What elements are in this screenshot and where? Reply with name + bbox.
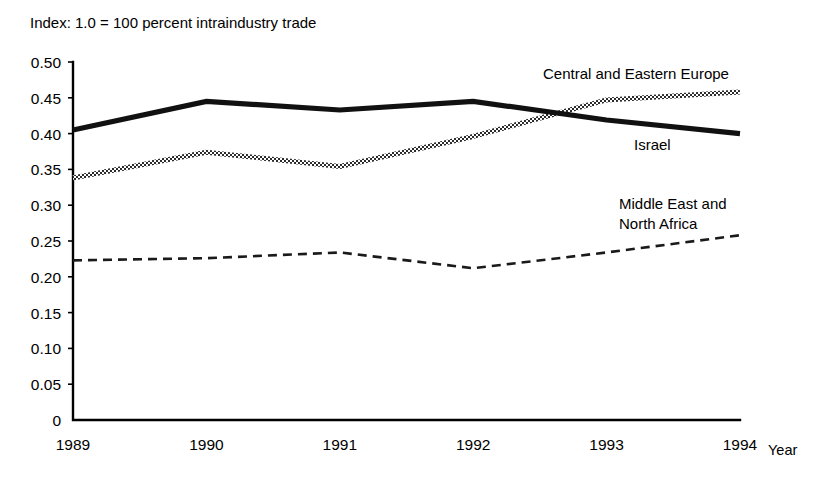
series-annotation-label: North Africa bbox=[619, 215, 698, 232]
series-annotation-label: Central and Eastern Europe bbox=[543, 65, 729, 82]
chart-figure: Index: 1.0 = 100 percent intraindustry t… bbox=[0, 0, 831, 481]
series-annotation-label: Israel bbox=[634, 136, 671, 153]
x-axis-title: Year bbox=[768, 442, 797, 458]
series-annotation-label: Middle East and bbox=[619, 195, 727, 212]
intraindustry-trade-line-chart: Index: 1.0 = 100 percent intraindustry t… bbox=[0, 0, 831, 481]
